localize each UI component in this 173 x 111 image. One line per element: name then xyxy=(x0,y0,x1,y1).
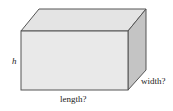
width-label: width? xyxy=(141,77,166,86)
height-label: h xyxy=(12,57,17,66)
length-label: length? xyxy=(60,95,87,104)
top-face xyxy=(21,9,146,31)
front-face xyxy=(21,31,128,90)
box-diagram xyxy=(0,0,173,111)
